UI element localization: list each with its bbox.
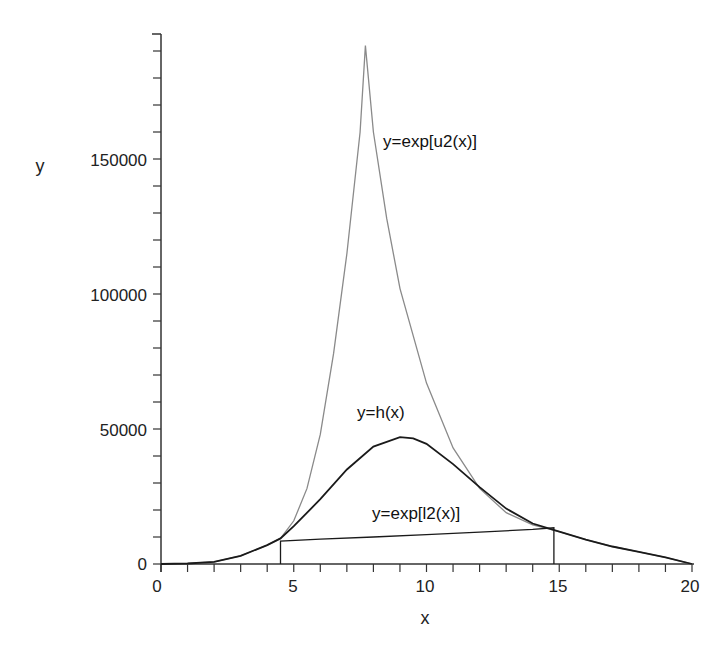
y-tick-label-100000: 100000 bbox=[90, 286, 147, 305]
y-tick-label-50000: 50000 bbox=[100, 421, 147, 440]
x-axis-label: x bbox=[421, 608, 430, 628]
y-tick-label-150000: 150000 bbox=[90, 151, 147, 170]
y-axis-label: y bbox=[36, 156, 45, 176]
x-axis bbox=[161, 564, 694, 572]
x-tick-label-0: 0 bbox=[152, 577, 161, 596]
y-axis bbox=[152, 34, 161, 572]
x-tick-label-10: 10 bbox=[416, 577, 435, 596]
upper-envelope-curve bbox=[161, 46, 692, 564]
l2-curve-label: y=exp[l2(x)] bbox=[372, 504, 460, 523]
h-curve-label: y=h(x) bbox=[357, 403, 405, 422]
x-tick-label-15: 15 bbox=[549, 577, 568, 596]
chart: 0 50000 100000 150000 0 5 10 15 20 x y y… bbox=[0, 0, 727, 649]
target-density-curve bbox=[161, 437, 692, 564]
x-tick-label-20: 20 bbox=[681, 577, 700, 596]
lower-squeeze-curve bbox=[281, 528, 554, 564]
y-tick-label-0: 0 bbox=[138, 555, 147, 574]
x-tick-label-5: 5 bbox=[288, 577, 297, 596]
u2-curve-label: y=exp[u2(x)] bbox=[383, 132, 477, 151]
